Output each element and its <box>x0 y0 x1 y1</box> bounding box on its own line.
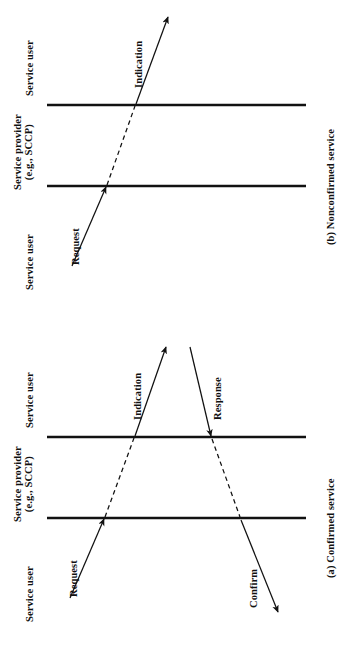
lane-label-top-user-b: Service user <box>24 40 35 96</box>
lane-label-provider-line2-a: (e.g., SCCP) <box>23 446 34 522</box>
arrow-label-request-b: Request <box>70 228 81 265</box>
lane-label-top-user-a: Service user <box>24 372 35 428</box>
confirmed-boundary-lines <box>47 437 306 518</box>
figure-page: Service user Service provider (e.g., SCC… <box>0 0 339 648</box>
lane-label-bottom-user-a: Service user <box>24 566 35 622</box>
nonconfirmed-boundary-lines <box>47 105 306 186</box>
lane-label-provider-line2-b: (e.g., SCCP) <box>23 114 34 190</box>
lane-label-bottom-user-b: Service user <box>24 234 35 290</box>
lane-label-provider-line1-b: Service provider <box>12 114 23 190</box>
caption-confirmed: (a) Confirmed service <box>325 479 336 578</box>
arrow-label-indication-a: Indication <box>132 373 143 420</box>
lane-label-provider-b: Service provider (e.g., SCCP) <box>12 114 34 190</box>
caption-nonconfirmed: (b) Nonconfirmed service <box>325 129 336 245</box>
lane-label-provider-a: Service provider (e.g., SCCP) <box>12 446 34 522</box>
dashed-transfer-b <box>107 106 135 185</box>
arrow-label-confirm-a: Confirm <box>248 569 259 608</box>
dashed-transfer-request-a <box>105 438 134 517</box>
arrow-label-request-a: Request <box>68 560 79 597</box>
arrow-label-response-a: Response <box>212 377 223 420</box>
arrow-response-a <box>190 347 211 436</box>
figure-vector-layer <box>0 0 339 648</box>
arrow-label-indication-b: Indication <box>133 41 144 88</box>
arrow-confirm-a <box>241 520 278 612</box>
lane-label-provider-line1-a: Service provider <box>12 446 23 522</box>
dashed-transfer-response-a <box>212 439 240 517</box>
